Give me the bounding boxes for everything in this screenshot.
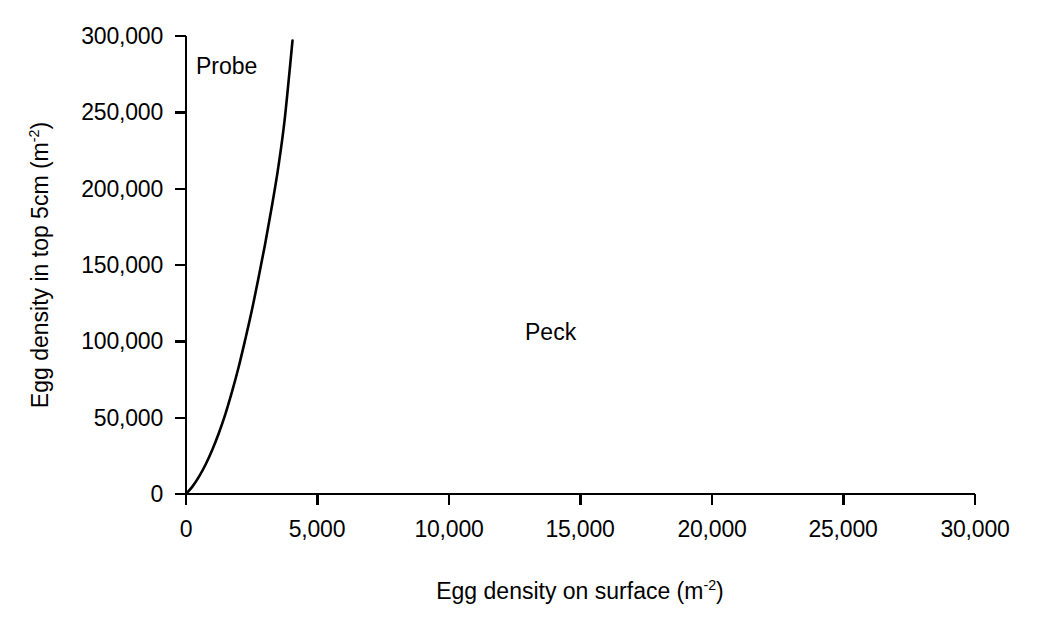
x-tick-label-5000: 5,000 — [289, 516, 346, 543]
x-axis-ticks — [186, 494, 975, 505]
y-tick-label-0: 0 — [58, 481, 163, 508]
x-tick-label-10000: 10,000 — [414, 516, 483, 543]
y-axis-title-exponent: -2 — [26, 130, 42, 143]
x-axis-title-text: Egg density on surface (m — [436, 578, 703, 604]
x-tick-label-20000: 20,000 — [677, 516, 746, 543]
x-tick-label-15000: 15,000 — [545, 516, 614, 543]
y-tick-label-150000: 150,000 — [58, 252, 163, 279]
y-tick-label-100000: 100,000 — [58, 328, 163, 355]
x-axis-title-tail: ) — [716, 578, 724, 604]
chart-figure: 300,000 250,000 200,000 150,000 100,000 … — [0, 0, 1056, 639]
x-tick-label-25000: 25,000 — [808, 516, 877, 543]
y-tick-label-50000: 50,000 — [58, 405, 163, 432]
peck-series-label: Peck — [525, 319, 576, 346]
y-tick-label-250000: 250,000 — [58, 99, 163, 126]
y-axis-title-text: Egg density in top 5cm (m — [27, 142, 53, 408]
y-axis-title: Egg density in top 5cm (m-2) — [27, 122, 54, 408]
y-axis-title-tail: ) — [27, 122, 53, 130]
x-tick-label-30000: 30,000 — [940, 516, 1009, 543]
x-tick-label-0: 0 — [180, 516, 193, 543]
y-axis-ticks — [175, 36, 186, 494]
x-axis-title-exponent: -2 — [703, 577, 716, 593]
y-tick-label-300000: 300,000 — [58, 23, 163, 50]
x-axis-title: Egg density on surface (m-2) — [436, 578, 724, 605]
y-tick-label-200000: 200,000 — [58, 176, 163, 203]
probe-series-label: Probe — [196, 53, 257, 80]
probe-curve — [186, 41, 293, 494]
